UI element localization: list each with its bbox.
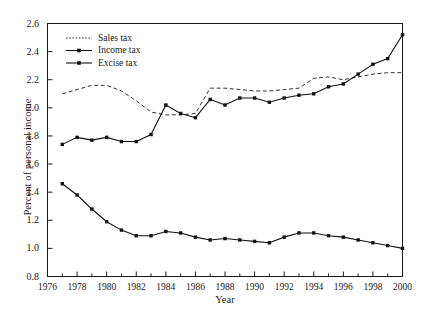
data-point xyxy=(327,234,330,237)
series-line-excise-tax xyxy=(62,184,402,249)
data-point xyxy=(209,238,212,241)
data-point xyxy=(90,207,93,210)
data-point xyxy=(105,220,108,223)
data-point xyxy=(61,143,64,146)
y-axis-ticks xyxy=(48,24,53,277)
y-tick-label: 2.4 xyxy=(5,47,39,57)
data-point xyxy=(120,228,123,231)
data-point xyxy=(105,136,108,139)
data-point xyxy=(149,234,152,237)
data-point xyxy=(282,96,285,99)
data-point xyxy=(371,63,374,66)
data-point xyxy=(342,82,345,85)
data-point xyxy=(179,231,182,234)
data-point xyxy=(149,133,152,136)
y-tick-label: 2.2 xyxy=(5,75,39,85)
data-point xyxy=(253,96,256,99)
data-point xyxy=(61,182,64,185)
data-point xyxy=(268,101,271,104)
data-point xyxy=(164,103,167,106)
y-tick-label: 1.8 xyxy=(5,131,39,141)
y-tick-label: 1.0 xyxy=(5,243,39,253)
data-point xyxy=(90,138,93,141)
data-point xyxy=(179,112,182,115)
data-point xyxy=(223,237,226,240)
y-tick-label: 2.6 xyxy=(5,19,39,29)
legend-marker xyxy=(77,61,81,65)
data-point xyxy=(327,85,330,88)
legend-label-income-tax: Income tax xyxy=(98,45,140,55)
data-point xyxy=(135,140,138,143)
data-point xyxy=(386,57,389,60)
data-point xyxy=(238,96,241,99)
y-tick-label: 0.8 xyxy=(5,272,39,282)
data-point xyxy=(120,140,123,143)
data-point xyxy=(209,98,212,101)
chart-canvas xyxy=(0,0,424,314)
data-point xyxy=(238,238,241,241)
data-point xyxy=(297,231,300,234)
data-point xyxy=(282,235,285,238)
data-point xyxy=(135,234,138,237)
data-point xyxy=(371,241,374,244)
data-point xyxy=(297,93,300,96)
data-point xyxy=(386,244,389,247)
data-point xyxy=(356,238,359,241)
y-tick-label: 1.6 xyxy=(5,159,39,169)
data-point xyxy=(401,33,404,36)
data-point xyxy=(401,247,404,250)
data-point xyxy=(356,72,359,75)
data-point xyxy=(253,240,256,243)
data-point xyxy=(312,231,315,234)
legend-symbols xyxy=(66,38,92,65)
x-axis-ticks xyxy=(48,272,403,277)
chart-figure: Percent of personal income Year 0.81.01.… xyxy=(0,0,424,314)
legend-label-sales-tax: Sales tax xyxy=(98,33,132,43)
data-point xyxy=(194,116,197,119)
x-tick-label: 2000 xyxy=(383,282,423,292)
legend-marker xyxy=(77,49,81,53)
y-tick-label: 1.4 xyxy=(5,187,39,197)
data-point xyxy=(164,230,167,233)
data-point xyxy=(194,235,197,238)
data-point xyxy=(75,136,78,139)
data-point xyxy=(312,92,315,95)
x-axis-title: Year xyxy=(47,294,403,305)
y-tick-label: 2.0 xyxy=(5,103,39,113)
data-point xyxy=(342,235,345,238)
data-point xyxy=(75,193,78,196)
data-point xyxy=(268,241,271,244)
legend-label-excise-tax: Excise tax xyxy=(98,58,137,68)
data-point xyxy=(223,103,226,106)
y-tick-label: 1.2 xyxy=(5,215,39,225)
